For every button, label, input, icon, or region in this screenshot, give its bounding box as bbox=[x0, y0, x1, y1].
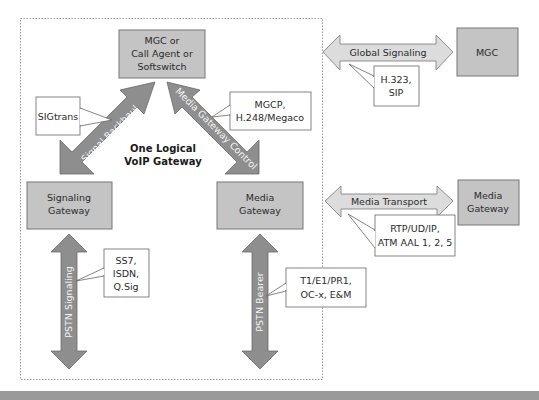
pstn-signaling-arrow: PSTN Signaling bbox=[51, 234, 87, 369]
h323-sip-callout: H.323, SIP bbox=[349, 64, 419, 106]
arrow-label: Global Signaling bbox=[349, 47, 426, 58]
logical-gateway-title: VoIP Gateway bbox=[124, 156, 202, 167]
bottom-divider-bar bbox=[0, 391, 539, 400]
ss7-isdn-qsig-callout: SS7, ISDN, Q.Sig bbox=[76, 249, 149, 297]
signaling-gateway-node: Signaling Gateway bbox=[27, 182, 112, 229]
mgc-call-agent-softswitch-node: MGC or Call Agent or Softswitch bbox=[119, 30, 205, 78]
arrow-label: PSTN Signaling bbox=[63, 266, 74, 338]
t1-e1-pr1-callout: T1/E1/PR1, OC-x, E&M bbox=[266, 268, 366, 307]
callout-text: H.248/Megaco bbox=[236, 112, 304, 123]
logical-gateway-title: One Logical bbox=[130, 143, 196, 154]
media-gateway-external-node: Media Gateway bbox=[458, 180, 519, 225]
callout-text: RTP/UD/IP, bbox=[390, 223, 440, 234]
media-transport-arrow: Media Transport bbox=[325, 186, 453, 217]
node-label-line: Gateway bbox=[48, 205, 90, 216]
node-label-line: MGC bbox=[476, 47, 499, 58]
callout-text: ISDN, bbox=[113, 268, 139, 279]
callout-text: T1/E1/PR1, bbox=[299, 275, 352, 286]
node-label-line: Gateway bbox=[467, 203, 509, 214]
arrow-label: PSTN Bearer bbox=[254, 272, 265, 331]
node-label-line: MGC or bbox=[145, 35, 180, 46]
callout-text: OC-x, E&M bbox=[301, 289, 352, 300]
mgc-external-node: MGC bbox=[457, 28, 518, 76]
callout-text: ATM AAL 1, 2, 5 bbox=[378, 237, 453, 248]
mgcp-megaco-callout: MGCP, H.248/Megaco bbox=[212, 92, 311, 130]
arrow-label: Media Transport bbox=[351, 196, 427, 207]
node-label-line: Softswitch bbox=[137, 61, 186, 72]
node-label-line: Gateway bbox=[239, 205, 281, 216]
global-signaling-arrow: Global Signaling bbox=[323, 35, 453, 70]
callout-text: SIP bbox=[389, 87, 404, 98]
pstn-bearer-arrow: PSTN Bearer bbox=[242, 234, 278, 369]
rtp-atm-callout: RTP/UD/IP, ATM AAL 1, 2, 5 bbox=[348, 214, 455, 256]
node-label-line: Signaling bbox=[47, 192, 91, 203]
node-label-line: Media bbox=[246, 192, 275, 203]
voip-gateway-diagram: MGC or Call Agent or Softswitch Signal B… bbox=[0, 0, 539, 400]
node-label-line: Media bbox=[474, 190, 503, 201]
callout-text: SS7, bbox=[115, 255, 136, 266]
media-gateway-node: Media Gateway bbox=[217, 182, 303, 229]
callout-text: H.323, bbox=[380, 74, 411, 85]
callout-text: Q.Sig bbox=[113, 281, 138, 292]
node-label-line: Call Agent or bbox=[131, 48, 193, 59]
callout-text: SIGtrans bbox=[38, 111, 79, 122]
callout-text: MGCP, bbox=[255, 99, 286, 110]
